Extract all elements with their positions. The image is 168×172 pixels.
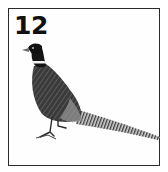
pheasant-illustration xyxy=(0,0,168,172)
head xyxy=(28,44,42,54)
white-neck-ring xyxy=(32,61,45,64)
tail xyxy=(76,110,160,140)
beak xyxy=(22,48,29,52)
